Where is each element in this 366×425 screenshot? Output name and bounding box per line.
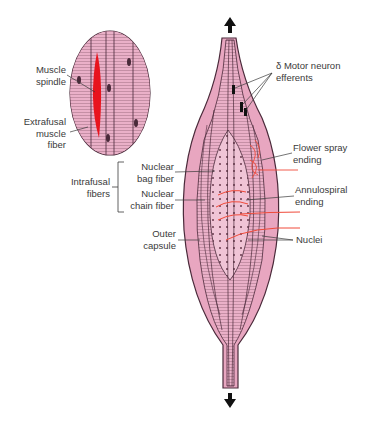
label-line: Intrafusal — [56, 176, 110, 188]
inset-extrafusal-section — [70, 30, 150, 156]
label-line: ending — [293, 154, 347, 166]
label-line: Extrafusal — [14, 116, 66, 128]
label-extrafusal-muscle-fiber: Extrafusal muscle fiber — [14, 116, 66, 151]
label-line: Flower spray — [293, 142, 347, 154]
label-line: Annulospiral — [295, 184, 347, 196]
label-line: Outer — [130, 228, 176, 240]
label-intrafusal-fibers: Intrafusal fibers — [56, 176, 110, 199]
label-line: capsule — [130, 240, 176, 252]
label-line: bag fiber — [120, 173, 174, 185]
label-line: Nuclear — [115, 188, 174, 200]
label-motor-neuron-efferents: δ Motor neuron efferents — [276, 60, 340, 83]
up-arrow — [224, 17, 236, 33]
label-flower-spray-ending: Flower spray ending — [293, 142, 347, 165]
down-arrow — [224, 393, 236, 408]
label-nuclei: Nuclei — [296, 234, 322, 246]
label-line: fibers — [56, 188, 110, 200]
label-line: muscle — [14, 128, 66, 140]
label-outer-capsule: Outer capsule — [130, 228, 176, 251]
label-line: fiber — [14, 139, 66, 151]
label-line: efferents — [276, 72, 340, 84]
label-nuclear-bag-fiber: Nuclear bag fiber — [120, 161, 174, 184]
label-line: Muscle — [28, 64, 66, 76]
label-line: ending — [295, 196, 347, 208]
label-line: Nuclei — [296, 234, 322, 246]
label-line: δ Motor neuron — [276, 60, 340, 72]
label-line: spindle — [28, 76, 66, 88]
label-line: chain fiber — [115, 200, 174, 212]
label-muscle-spindle: Muscle spindle — [28, 64, 66, 87]
label-annulospiral-ending: Annulospiral ending — [295, 184, 347, 207]
label-line: Nuclear — [120, 161, 174, 173]
label-nuclear-chain-fiber: Nuclear chain fiber — [115, 188, 174, 211]
